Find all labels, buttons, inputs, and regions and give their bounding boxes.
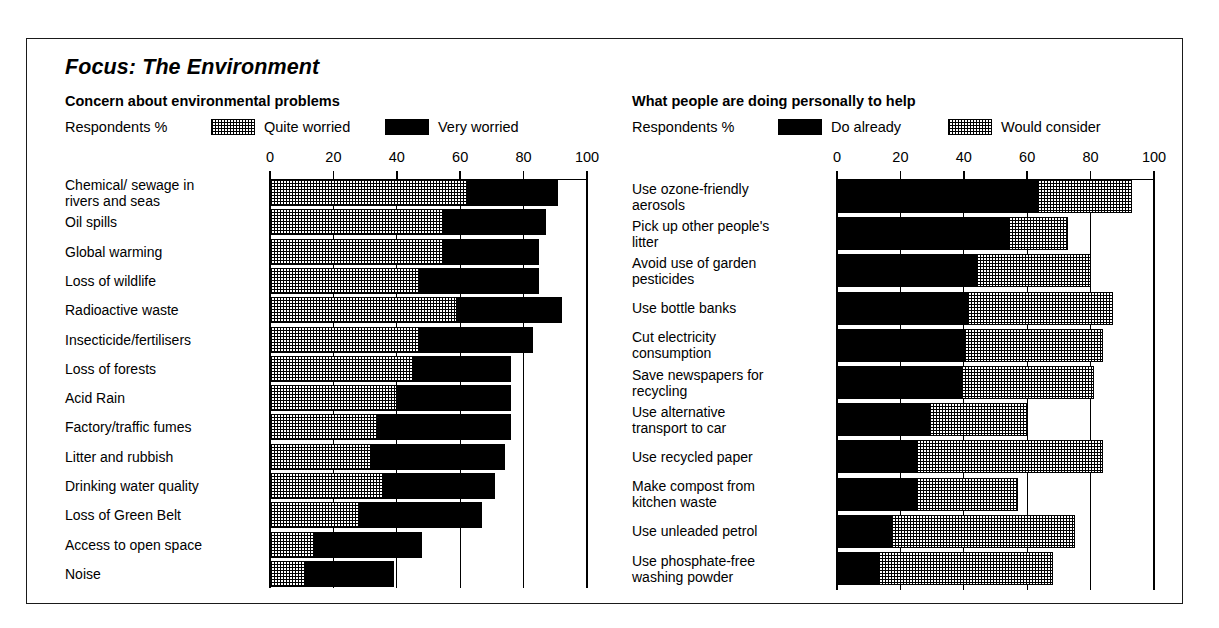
legend-swatch-very-worried-icon [385,119,429,135]
bar-segment-quite [270,268,419,294]
bar-track [837,254,1154,287]
bar-row-label: Avoid use of garden pesticides [632,255,829,287]
bar-row-label: Global warming [65,244,262,260]
bar-row-label: Noise [65,566,262,582]
bar-track [270,268,587,294]
bar-track [270,239,587,265]
bar-track [837,366,1154,399]
bar-row: Loss of Green Belt [65,502,610,528]
legend-item-quite-worried: Quite worried [211,117,350,137]
bar-track [270,209,587,235]
bar-segment-already [837,180,1037,213]
bar-row-label: Insecticide/fertilisers [65,332,262,348]
legend-label-quite-worried: Quite worried [264,119,350,135]
bar-row-label: Loss of wildlife [65,273,262,289]
bar-row-label: Pick up other people's litter [632,218,829,250]
bar-row-label: Use ozone-friendly aerosols [632,181,829,213]
bar-row: Use recycled paper [632,440,1177,473]
x-tick-label-60: 60 [452,149,468,165]
legend-unit-label-concern: Respondents % [65,117,167,137]
bar-row-label: Use bottle banks [632,300,829,316]
bar-row: Use bottle banks [632,292,1177,325]
x-tick-label-20: 20 [892,149,908,165]
bar-row: Global warming [65,239,610,265]
bar-row: Use alternative transport to car [632,403,1177,436]
bar-segment-very [419,268,539,294]
bar-segment-already [837,515,891,548]
bar-row-label: Cut electricity consumption [632,329,829,361]
legend-actions: Respondents % Do already Would consider [632,117,1177,137]
bar-segment-quite [270,327,419,353]
bar-row: Save newspapers for recycling [632,366,1177,399]
bar-track [270,327,587,353]
bar-segment-quite [270,532,314,558]
bar-row: Use unleaded petrol [632,515,1177,548]
legend-label-very-worried: Very worried [438,119,519,135]
bar-track [270,561,587,587]
bar-row-label: Factory/traffic fumes [65,419,262,435]
x-axis-tick-labels-concern: 020406080100 [65,149,610,169]
bar-track [270,356,587,382]
bar-segment-quite [270,473,384,499]
bar-segment-consider [961,366,1094,399]
legend-label-would-consider: Would consider [1001,119,1101,135]
bar-segment-very [305,561,394,587]
x-axis-ticks-actions [632,171,1177,180]
bar-row: Acid Rain [65,385,610,411]
bar-segment-already [837,478,916,511]
bar-row-label: Litter and rubbish [65,449,262,465]
bar-segment-very [444,239,539,265]
bar-track [837,292,1154,325]
bar-row: Access to open space [65,532,610,558]
legend-label-do-already: Do already [831,119,901,135]
bar-track [270,444,587,470]
x-tick-label-100: 100 [575,149,599,165]
x-tick-label-20: 20 [325,149,341,165]
bar-track [837,329,1154,362]
bar-row-label: Oil spills [65,214,262,230]
panel-heading-actions: What people are doing personally to help [632,93,916,109]
bar-segment-already [837,440,916,473]
bar-track [270,414,587,440]
legend-item-would-consider: Would consider [948,117,1101,137]
bar-row-label: Make compost from kitchen waste [632,478,829,510]
bar-segment-quite [270,356,413,382]
figure-title: Focus: The Environment [65,55,319,80]
bar-segment-quite [270,414,378,440]
x-tick-label-80: 80 [516,149,532,165]
bar-segment-quite [270,385,397,411]
bar-row-label: Save newspapers for recycling [632,367,829,399]
bar-row: Chemical/ sewage in rivers and seas [65,180,610,206]
bar-row: Cut electricity consumption [632,329,1177,362]
bar-segment-consider [1008,217,1068,250]
bar-track [837,552,1154,585]
bar-track [270,502,587,528]
x-tick-label-80: 80 [1083,149,1099,165]
bar-segment-quite [270,239,444,265]
bar-segment-consider [929,403,1027,436]
bar-segment-very [457,297,562,323]
x-axis-tick-labels-actions: 020406080100 [632,149,1177,169]
bar-segment-quite [270,209,444,235]
bar-segment-consider [891,515,1075,548]
bar-segment-very [384,473,495,499]
bar-row-label: Use alternative transport to car [632,404,829,436]
bar-segment-already [837,403,929,436]
bar-row-label: Use recycled paper [632,449,829,465]
bar-track [837,515,1154,548]
bar-segment-quite [270,444,371,470]
bar-segment-very [467,180,559,206]
bar-row-label: Loss of Green Belt [65,507,262,523]
bar-row: Drinking water quality [65,473,610,499]
bar-row-label: Access to open space [65,537,262,553]
bar-track [270,385,587,411]
bar-segment-consider [967,292,1113,325]
bar-row: Loss of forests [65,356,610,382]
legend-unit-label-actions: Respondents % [632,117,734,137]
bar-row: Factory/traffic fumes [65,414,610,440]
bar-segment-quite [270,297,457,323]
bar-segment-already [837,292,967,325]
bar-rows-concern: Chemical/ sewage in rivers and seasOil s… [65,180,610,580]
panel-actions: What people are doing personally to help… [632,93,1177,593]
x-tick-label-40: 40 [956,149,972,165]
